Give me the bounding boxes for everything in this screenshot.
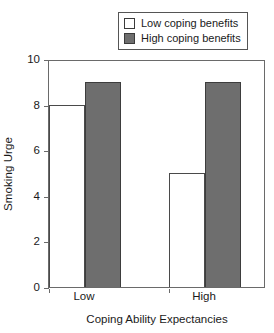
bar-low-low-coping-benefits xyxy=(49,105,85,287)
legend-swatch-light-icon xyxy=(124,18,135,29)
y-axis-tick-label: 6 xyxy=(34,144,40,156)
x-axis-category-label: Low xyxy=(48,290,120,302)
bar-chart-figure: Low coping benefits High coping benefits… xyxy=(0,0,274,333)
legend-item-low-coping-benefits: Low coping benefits xyxy=(124,16,241,31)
y-axis-title: Smoking Urge xyxy=(1,60,15,288)
bar-high-low-coping-benefits xyxy=(169,173,205,287)
bar-low-high-coping-benefits xyxy=(85,82,121,287)
plot-area: 0246810 xyxy=(48,60,265,288)
chart-legend: Low coping benefits High coping benefits xyxy=(118,12,248,50)
x-axis-title: Coping Ability Expectancies xyxy=(48,313,266,325)
x-axis-category-label: High xyxy=(168,290,240,302)
y-axis-tick-label: 0 xyxy=(34,281,40,293)
y-axis-tick-label: 4 xyxy=(34,190,40,202)
y-axis-tick-label: 2 xyxy=(34,235,40,247)
bar-high-high-coping-benefits xyxy=(205,82,241,287)
legend-label-low-coping-benefits: Low coping benefits xyxy=(141,17,238,30)
y-axis-tick-label: 10 xyxy=(27,53,40,65)
plot-inner: 0246810 xyxy=(49,61,264,287)
legend-item-high-coping-benefits: High coping benefits xyxy=(124,31,241,46)
legend-label-high-coping-benefits: High coping benefits xyxy=(141,32,241,45)
y-axis-title-text: Smoking Urge xyxy=(2,137,14,211)
y-axis-tick-label: 8 xyxy=(34,99,40,111)
legend-swatch-dark-icon xyxy=(124,33,135,44)
x-axis-title-text: Coping Ability Expectancies xyxy=(86,313,227,325)
y-axis-tick-mark xyxy=(44,60,49,61)
